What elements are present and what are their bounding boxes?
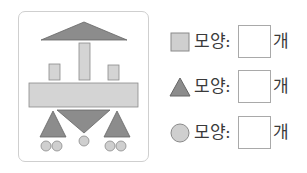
left-triangle (40, 111, 66, 137)
circle (52, 141, 62, 151)
right-triangle (104, 111, 130, 137)
shape-label: 모양: (194, 75, 230, 97)
shape-label: 모양: (194, 121, 230, 143)
shape-figure (0, 0, 160, 173)
mast-rectangle (79, 43, 90, 80)
roof-triangle (41, 22, 127, 40)
triangle-icon (169, 77, 191, 97)
circle (116, 141, 126, 151)
square-icon (170, 32, 190, 52)
question-row-circle: 모양: 개 (166, 116, 306, 150)
square-count-input[interactable] (238, 25, 271, 58)
question-row-triangle: 모양: 개 (166, 70, 306, 104)
circle (105, 141, 115, 151)
question-row-square: 모양: 개 (166, 25, 306, 59)
right-small-rectangle (108, 65, 119, 80)
unit-label: 개 (273, 121, 289, 143)
hull-triangle (57, 110, 110, 133)
circle-icon (170, 123, 190, 143)
circle-count-input[interactable] (238, 116, 271, 149)
left-small-rectangle (49, 64, 60, 80)
triangle-count-input[interactable] (238, 70, 271, 103)
shape-label: 모양: (194, 30, 230, 52)
unit-label: 개 (273, 75, 289, 97)
circle (79, 136, 89, 146)
deck-rectangle (29, 83, 138, 107)
unit-label: 개 (273, 30, 289, 52)
circle (41, 141, 51, 151)
